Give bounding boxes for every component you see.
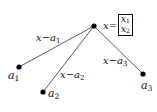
- node-a3-dot: [140, 71, 145, 76]
- edge-label-x-a3: x−a3: [103, 56, 127, 68]
- node-x-dot: [91, 23, 96, 28]
- vector-bracket: x1 x2: [118, 14, 133, 36]
- node-a1-dot: [16, 64, 21, 69]
- edge-label-x-a2: x−a2: [60, 70, 84, 82]
- center-node-var: x=: [103, 20, 117, 31]
- edge-label-x-a1: x−a1: [36, 33, 60, 45]
- center-node-label: x= x1 x2: [103, 14, 133, 36]
- diagram-canvas: [0, 0, 157, 112]
- vector-component-2: x2: [121, 25, 130, 35]
- node-label-a2: a2: [48, 88, 59, 101]
- node-label-a1: a1: [8, 70, 19, 83]
- node-a2-dot: [40, 89, 45, 94]
- node-label-a3: a3: [141, 80, 152, 93]
